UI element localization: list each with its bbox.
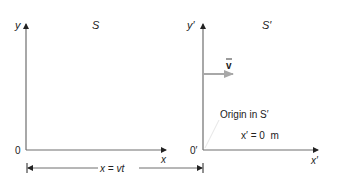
- s-prime-y-label: y′: [186, 19, 196, 31]
- annotation-line2: x′ = 0 m: [241, 130, 279, 141]
- annotation-line1: Origin in S′: [220, 109, 269, 120]
- s-frame-name: S: [92, 19, 100, 31]
- frame-s: y S 0 x: [14, 19, 167, 165]
- s-x-label: x: [160, 154, 167, 165]
- displacement-label: x = vt: [99, 163, 125, 174]
- velocity-vector: v: [203, 59, 233, 74]
- s-prime-frame-name: S′: [262, 19, 272, 31]
- s-y-label: y: [14, 19, 22, 31]
- s-prime-x-label: x′: [310, 155, 319, 166]
- s-prime-origin-label: 0′: [190, 145, 198, 156]
- leader-line: [205, 120, 219, 148]
- velocity-label: v: [226, 60, 232, 71]
- frame-s-prime: y′ S′ 0′ x′: [186, 19, 319, 166]
- s-origin-label: 0: [15, 145, 21, 156]
- annotation-text: Origin in S′: [220, 109, 269, 120]
- displacement-dimension: x = vt: [27, 163, 203, 174]
- origin-annotation: Origin in S′ x′ = 0 m: [205, 109, 279, 148]
- reference-frames-diagram: y S 0 x y′ S′ 0′ x′ v Origin in S′ x′ = …: [0, 0, 339, 179]
